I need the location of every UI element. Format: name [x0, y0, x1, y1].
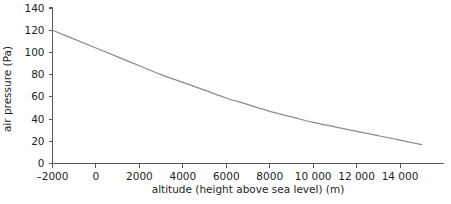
x-axis-tick-labels: –20000200040006000800010 00012 00014 000 [37, 170, 419, 182]
x-axis-title: altitude (height above sea level) (m) [152, 183, 345, 195]
x-tick-label: 14 000 [382, 170, 419, 182]
y-axis-tick-labels: 020406080100120140 [24, 2, 44, 170]
chart-canvas: 020406080100120140 –20000200040006000800… [0, 0, 451, 204]
x-tick-label: 12 000 [338, 170, 375, 182]
x-tick-label: 2000 [126, 170, 153, 182]
air-pressure-vs-altitude-chart: 020406080100120140 –20000200040006000800… [0, 0, 451, 204]
x-tick-label: 4000 [169, 170, 196, 182]
chart-series-group [53, 30, 422, 144]
y-axis-ticks [49, 8, 53, 164]
y-tick-label: 140 [24, 2, 44, 14]
data-curve-air-pressure [53, 30, 422, 144]
x-axis-ticks [53, 164, 401, 168]
y-tick-label: 0 [38, 157, 45, 169]
x-tick-label: 0 [93, 170, 100, 182]
x-tick-label: 8000 [256, 170, 283, 182]
chart-axes [53, 8, 444, 164]
x-tick-label: 10 000 [295, 170, 332, 182]
y-tick-label: 60 [31, 90, 44, 102]
y-tick-label: 80 [31, 68, 44, 80]
y-axis-title: air pressure (Pa) [1, 46, 13, 132]
y-tick-label: 20 [31, 135, 44, 147]
y-tick-label: 100 [24, 46, 44, 58]
x-tick-label: –2000 [37, 170, 69, 182]
x-tick-label: 6000 [213, 170, 240, 182]
y-tick-label: 40 [31, 113, 44, 125]
y-tick-label: 120 [24, 24, 44, 36]
